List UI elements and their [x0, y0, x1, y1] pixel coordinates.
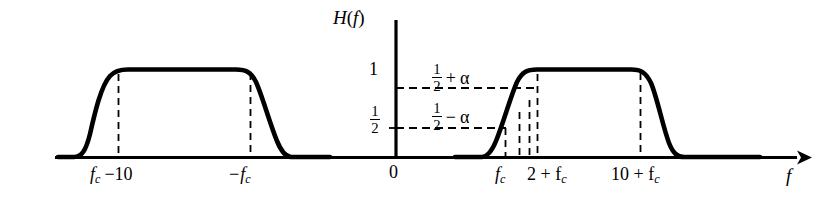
lvl1-sym: α	[460, 107, 469, 127]
right-band-curve	[455, 70, 760, 158]
xtick-fc-minus-10: fc−10	[90, 165, 133, 186]
xtick-ten-plus-fc: 10 + fc	[611, 165, 660, 186]
x-axis-title: f	[786, 166, 791, 185]
xtick1-sub: c	[245, 172, 250, 186]
xtick3-sub: c	[561, 172, 566, 186]
ytick-half-num: 1	[370, 104, 380, 119]
lvl1-den: 2	[432, 116, 442, 133]
left-band-curve	[58, 70, 330, 158]
ytick-half-den: 2	[370, 119, 380, 136]
xtick-minus-fc: −fc	[228, 165, 251, 186]
level-label-half-minus-alpha: 12−α	[432, 101, 469, 134]
lvl0-den: 2	[432, 77, 442, 94]
ytick-half: 12	[370, 104, 380, 137]
lvl0-sym: α	[460, 68, 469, 88]
xtick4-sub: c	[654, 172, 659, 186]
lvl1-num: 1	[432, 101, 442, 116]
xtick0-tail: −10	[100, 164, 132, 184]
xtick-two-plus-fc: 2 + fc	[527, 165, 567, 186]
xtick3-main: 2 + f	[527, 164, 561, 184]
lvl0-op: +	[442, 68, 460, 88]
lvl1-op: −	[442, 107, 460, 127]
xtick1-main: −f	[228, 164, 245, 184]
xtick2-sub: c	[500, 172, 505, 186]
origin-label: 0	[389, 163, 398, 181]
level-label-half-plus-alpha: 12+α	[432, 62, 469, 95]
figure-canvas: H(f) f 0 1 12 12+α 12−α fc−10 −fc fc 2 +…	[0, 0, 822, 207]
lvl0-num: 1	[432, 62, 442, 77]
y-axis-title: H(f)	[333, 8, 365, 27]
xtick4-main: 10 + f	[611, 164, 654, 184]
ytick-one: 1	[369, 60, 378, 78]
xtick-fc: fc	[495, 165, 505, 186]
